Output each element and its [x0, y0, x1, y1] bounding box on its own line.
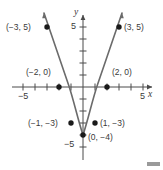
- data-point: [80, 132, 85, 137]
- x-axis: [12, 84, 152, 91]
- point-label-0-neg4: (0, −4): [88, 133, 113, 142]
- data-point: [116, 24, 121, 29]
- x-axis-label: x: [148, 90, 152, 100]
- graph-figure: (−3, 5) (3, 5) (−2, 0) (2, 0) (−1, −3) (…: [0, 0, 163, 170]
- point-label-3-5: (3, 5): [124, 23, 144, 32]
- data-point: [56, 84, 61, 89]
- y-axis-label: y: [74, 8, 78, 18]
- point-label-neg2-0: (−2, 0): [26, 68, 51, 77]
- point-label-neg1-neg3: (−1, −3): [28, 119, 58, 128]
- y-tick-label-5: 5: [71, 22, 76, 31]
- data-point: [68, 120, 73, 125]
- point-label-1-neg3: (1, −3): [100, 119, 125, 128]
- point-label-neg3-5: (−3, 5): [6, 23, 31, 32]
- corner-mark: [147, 162, 160, 166]
- y-tick-label-neg5: −5: [64, 140, 74, 149]
- x-tick-label-neg5: −5: [18, 92, 28, 101]
- x-tick-label-5: 5: [140, 92, 145, 101]
- data-point: [44, 24, 49, 29]
- point-label-2-0: (2, 0): [112, 68, 132, 77]
- data-point: [104, 84, 109, 89]
- data-point: [92, 120, 97, 125]
